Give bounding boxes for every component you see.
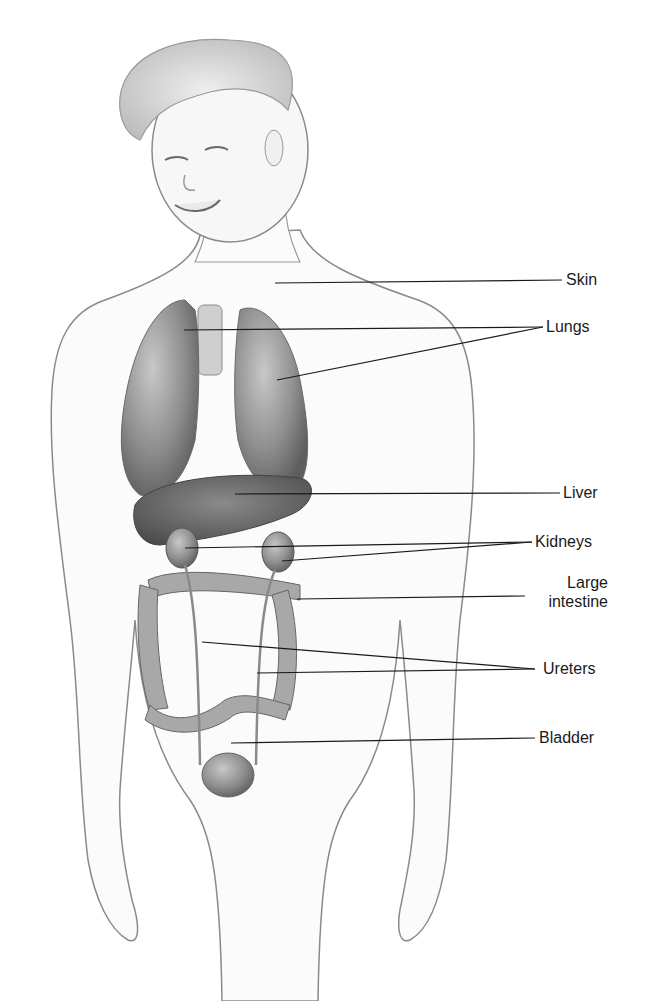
- anatomy-diagram: [0, 0, 652, 1001]
- label-skin: Skin: [566, 270, 597, 289]
- label-large-intestine: Large intestine: [528, 573, 608, 611]
- head: [120, 39, 308, 242]
- label-large-intestine-line2: intestine: [528, 592, 608, 611]
- label-ureters: Ureters: [543, 659, 595, 678]
- label-lungs: Lungs: [546, 317, 590, 336]
- label-large-intestine-line1: Large: [528, 573, 608, 592]
- label-liver: Liver: [563, 483, 598, 502]
- trachea: [198, 305, 222, 375]
- label-bladder: Bladder: [539, 728, 594, 747]
- bladder-illustration: [202, 753, 254, 797]
- label-kidneys: Kidneys: [535, 532, 592, 551]
